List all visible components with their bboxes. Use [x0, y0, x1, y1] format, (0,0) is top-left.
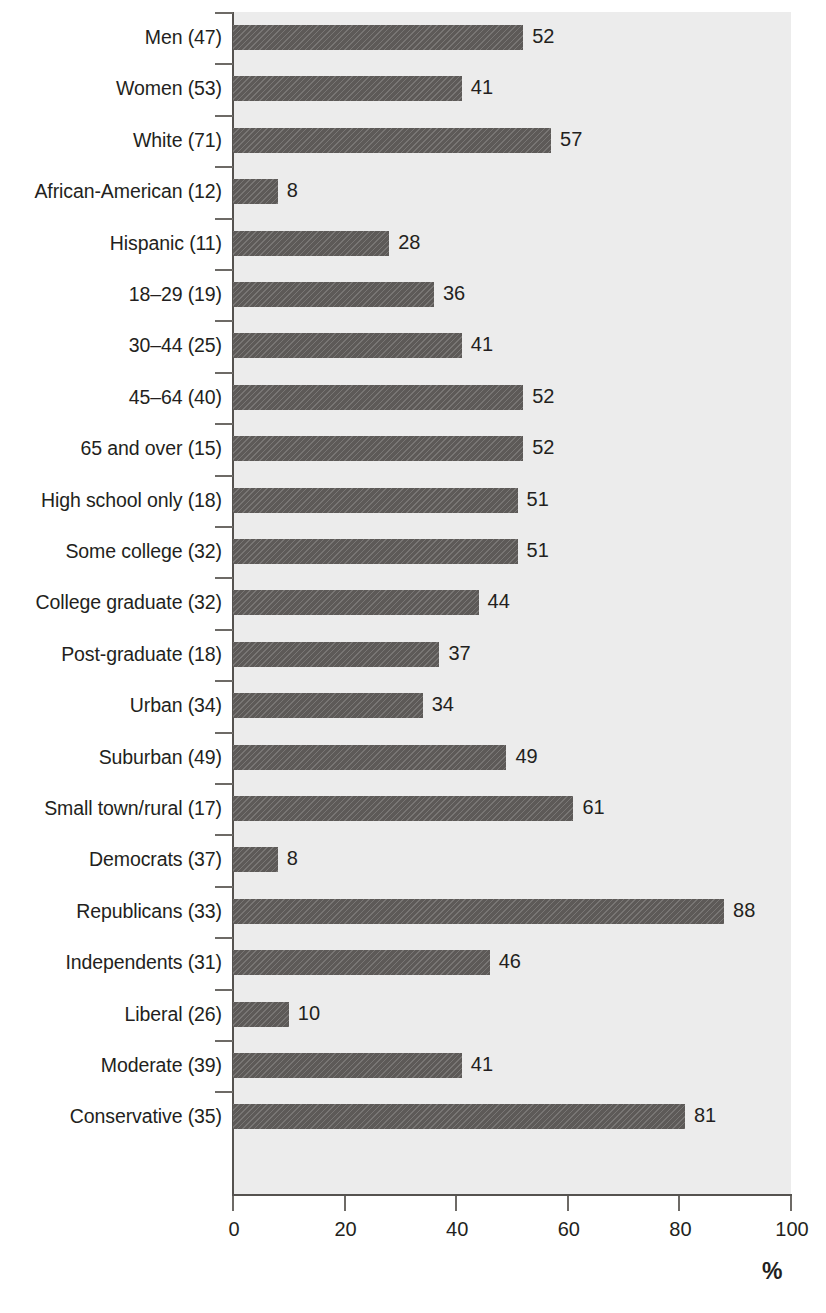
bar — [233, 385, 523, 410]
bar-row: Independents (31)46 — [0, 937, 826, 988]
bar — [233, 590, 479, 615]
bar-row: Democrats (37)8 — [0, 834, 826, 885]
y-axis-tick — [215, 115, 233, 117]
category-label: Hispanic (11) — [0, 230, 222, 256]
bar-row: Women (53)41 — [0, 63, 826, 114]
category-label: African-American (12) — [0, 178, 222, 204]
category-label: Urban (34) — [0, 692, 222, 718]
bar — [233, 128, 551, 153]
bar — [233, 950, 490, 975]
y-axis-tick — [215, 1091, 233, 1093]
y-axis-tick — [215, 577, 233, 579]
x-axis-tick — [455, 1196, 457, 1211]
bar-row: Hispanic (11)28 — [0, 218, 826, 269]
bar — [233, 488, 518, 513]
y-axis-tick — [215, 269, 233, 271]
bar-value-label: 10 — [298, 1000, 320, 1026]
y-axis-tick — [215, 218, 233, 220]
y-axis-tick — [215, 1040, 233, 1042]
bar — [233, 539, 518, 564]
bar — [233, 796, 573, 821]
y-axis-tick — [215, 680, 233, 682]
category-label: Democrats (37) — [0, 846, 222, 872]
bar — [233, 231, 389, 256]
bar — [233, 1002, 289, 1027]
bar — [233, 899, 724, 924]
bar-value-label: 41 — [471, 74, 493, 100]
category-label: Independents (31) — [0, 949, 222, 975]
bar-value-label: 36 — [443, 280, 465, 306]
bar-value-label: 52 — [532, 23, 554, 49]
bar-row: Urban (34)34 — [0, 680, 826, 731]
bar-value-label: 44 — [488, 588, 510, 614]
y-axis-tick — [215, 372, 233, 374]
y-axis-tick — [215, 475, 233, 477]
bar-value-label: 37 — [448, 640, 470, 666]
y-axis-tick — [215, 834, 233, 836]
bar-row: College graduate (32)44 — [0, 577, 826, 628]
bar-row: African-American (12)8 — [0, 166, 826, 217]
category-label: White (71) — [0, 127, 222, 153]
y-axis-tick — [215, 63, 233, 65]
bar — [233, 282, 434, 307]
bar-value-label: 51 — [527, 537, 549, 563]
bar-row: 30–44 (25)41 — [0, 320, 826, 371]
bar-value-label: 81 — [694, 1102, 716, 1128]
y-axis-tick — [215, 783, 233, 785]
x-axis-tick-label: 20 — [316, 1216, 376, 1242]
x-axis-tick — [567, 1196, 569, 1211]
y-axis-tick — [215, 320, 233, 322]
bar-row: Men (47)52 — [0, 12, 826, 63]
category-label: Women (53) — [0, 75, 222, 101]
bar-rows: Men (47)52Women (53)41White (71)57Africa… — [0, 0, 826, 1313]
category-label: Conservative (35) — [0, 1103, 222, 1129]
bar — [233, 333, 462, 358]
bar — [233, 847, 278, 872]
category-label: Republicans (33) — [0, 898, 222, 924]
bar-row: White (71)57 — [0, 115, 826, 166]
bar-value-label: 41 — [471, 331, 493, 357]
category-label: Moderate (39) — [0, 1052, 222, 1078]
category-label: 30–44 (25) — [0, 332, 222, 358]
x-axis-tick — [678, 1196, 680, 1211]
bar — [233, 25, 523, 50]
category-label: Liberal (26) — [0, 1001, 222, 1027]
x-axis-tick-label: 80 — [650, 1216, 710, 1242]
bar-value-label: 88 — [733, 897, 755, 923]
bar — [233, 693, 423, 718]
bar-row: 65 and over (15)52 — [0, 423, 826, 474]
y-axis-tick — [215, 937, 233, 939]
bar-chart: Men (47)52Women (53)41White (71)57Africa… — [0, 0, 826, 1313]
bar-value-label: 46 — [499, 948, 521, 974]
bar-row: Liberal (26)10 — [0, 989, 826, 1040]
category-label: 18–29 (19) — [0, 281, 222, 307]
category-label: High school only (18) — [0, 487, 222, 513]
x-axis-tick-label: 0 — [204, 1216, 264, 1242]
bar — [233, 1053, 462, 1078]
y-axis-tick — [215, 526, 233, 528]
x-axis-unit-label: % — [762, 1258, 782, 1285]
x-axis-tick-label: 40 — [427, 1216, 487, 1242]
category-label: 45–64 (40) — [0, 384, 222, 410]
y-axis-tick — [215, 166, 233, 168]
bar-row: Conservative (35)81 — [0, 1091, 826, 1142]
y-axis-tick — [215, 732, 233, 734]
bar-row: High school only (18)51 — [0, 475, 826, 526]
category-label: Suburban (49) — [0, 744, 222, 770]
x-axis-tick — [344, 1196, 346, 1211]
bar-row: 45–64 (40)52 — [0, 372, 826, 423]
bar-row: Small town/rural (17)61 — [0, 783, 826, 834]
category-label: Post-graduate (18) — [0, 641, 222, 667]
x-axis-tick — [790, 1196, 792, 1211]
bar-row: 18–29 (19)36 — [0, 269, 826, 320]
bar-value-label: 61 — [582, 794, 604, 820]
x-axis-tick — [232, 1196, 234, 1211]
category-label: 65 and over (15) — [0, 435, 222, 461]
bar — [233, 642, 439, 667]
bar-row: Post-graduate (18)37 — [0, 629, 826, 680]
y-axis-tick — [215, 629, 233, 631]
bar-value-label: 8 — [287, 177, 298, 203]
bar-row: Some college (32)51 — [0, 526, 826, 577]
bar-value-label: 28 — [398, 229, 420, 255]
bar — [233, 436, 523, 461]
